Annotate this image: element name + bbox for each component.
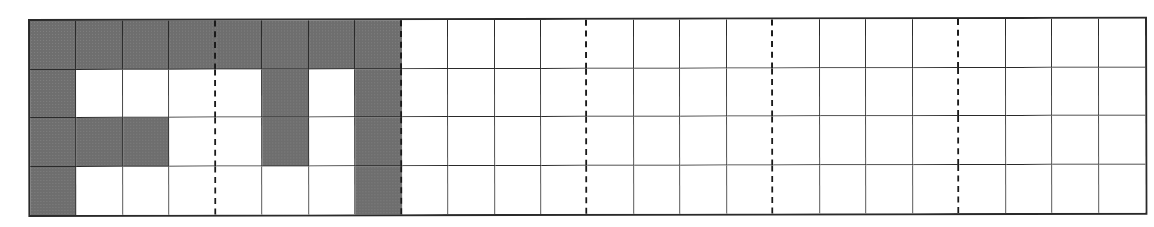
grid-cell-empty [123,166,170,215]
grid-cell-empty [1052,164,1099,213]
grid-cell-shaded [262,69,309,118]
grid-cell-empty [1052,116,1099,165]
grid-cell-empty [495,68,542,117]
grid-cell-shaded [77,118,124,167]
grid-cell-empty [402,69,449,118]
grid-cell-empty [727,116,774,165]
grid-cell-shaded [123,21,170,70]
grid-cell-shaded [355,20,402,69]
grid-cell-empty [866,68,913,117]
grid-cell-empty [1006,67,1053,116]
grid-cell-empty [402,117,449,166]
grid-cell-empty [727,19,774,68]
grid-cell-empty [216,166,263,215]
grid-cell-empty [820,165,867,214]
grid-cell-empty [1099,164,1146,213]
grid-cell-empty [866,116,913,165]
grid-cell-empty [681,68,728,117]
grid-cell-empty [1099,116,1146,165]
grid-cell-empty [820,116,867,165]
grid-cell-empty [402,166,449,215]
grid-cell-empty [913,165,960,214]
grid-cell-empty [959,164,1006,213]
grid-cell-empty [681,117,728,166]
grid-cell-empty [216,118,263,167]
grid-cell-empty [309,117,356,166]
grid-cell-empty [588,117,635,166]
grid-cell-empty [959,67,1006,116]
grid-cell-empty [1006,19,1053,68]
grid-cell-empty [1052,67,1099,116]
grid-cell-shaded [309,20,356,69]
shaded-grid-diagram [28,17,1147,217]
grid-cell-empty [727,68,774,117]
grid-cell-empty [541,165,588,214]
grid-cell-empty [773,68,820,117]
grid-cell-empty [448,166,495,215]
grid-cell-shaded [123,118,170,167]
grid-cell-empty [680,20,727,69]
grid-cell-empty [588,68,635,117]
grid-cell-empty [820,68,867,117]
grid-cell-empty [774,116,821,165]
grid-cell-shaded [30,69,77,118]
grid-cell-empty [866,19,913,68]
grid-cell-shaded [355,117,402,166]
grid-cell-empty [448,117,495,166]
grid-cell-empty [1006,164,1053,213]
grid-cell-empty [170,118,217,167]
grid-cell-empty [169,69,216,118]
grid-cell-empty [541,20,588,69]
grid-cell-empty [681,165,728,214]
grid-cell-empty [587,20,634,69]
grid-cell-empty [77,69,124,118]
grid-cell-shaded [169,21,216,70]
grid-cell-empty [448,69,495,118]
grid-cell-empty [309,166,356,215]
grid-cell-empty [495,20,542,69]
grid-cell-shaded [262,117,309,166]
grid-cell-empty [448,20,495,69]
grid-cell-empty [634,165,681,214]
grid-cell-shaded [216,21,263,70]
grid-cell-empty [820,19,867,68]
grid-cell-empty [1006,116,1053,165]
grid-cell-shaded [30,21,77,70]
grid-cell-shaded [355,69,402,118]
grid-cell-empty [216,69,263,118]
grid-cell-empty [309,69,356,118]
grid-cell-empty [77,166,124,215]
grid-cell-empty [727,165,774,214]
grid-cell-empty [774,165,821,214]
grid-cell-empty [541,68,588,117]
grid-cell-empty [170,166,217,215]
grid-cell-empty [913,68,960,117]
grid-cell-empty [495,165,542,214]
grid-cell-empty [541,117,588,166]
grid-cell-empty [588,165,635,214]
grid-cell-empty [867,165,914,214]
grid-cell-empty [634,68,681,117]
grid-cell-empty [634,20,681,69]
grid-cell-empty [1052,19,1099,68]
grid-cell-empty [913,116,960,165]
grid-cell-shaded [262,20,309,69]
grid-cell-shaded [30,166,77,215]
grid-cell-empty [495,117,542,166]
grid-cell-empty [959,19,1006,68]
grid-cell-shaded [76,21,123,70]
grid-cell-empty [1099,67,1146,116]
grid-cell-empty [959,116,1006,165]
grid-cell-empty [1099,19,1146,68]
grid-cell-empty [123,69,170,118]
grid-cell-empty [263,166,310,215]
grid-cell-empty [773,19,820,68]
grid-cell-empty [634,117,681,166]
grid-cell-shaded [356,166,403,215]
grid-cell-empty [402,20,449,69]
grid-cell-shaded [30,118,77,167]
grid-cell-empty [913,19,960,68]
